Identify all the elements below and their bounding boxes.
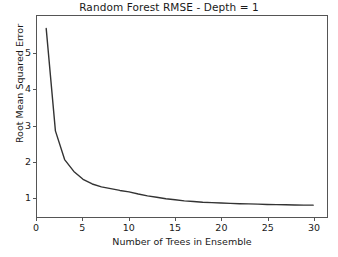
x-tick-label: 30 [299, 223, 329, 233]
x-tick-mark [314, 218, 315, 221]
y-tick-mark [33, 162, 36, 163]
x-tick-mark [175, 218, 176, 221]
y-tick-mark [33, 126, 36, 127]
y-tick-label: 1 [0, 193, 31, 203]
plot-area [36, 15, 328, 218]
x-tick-mark [82, 218, 83, 221]
y-tick-mark [33, 53, 36, 54]
rmse-line-series [37, 16, 327, 217]
x-axis-label: Number of Trees in Ensemble [36, 236, 328, 247]
x-tick-mark [36, 218, 37, 221]
x-tick-label: 5 [67, 223, 97, 233]
x-tick-label: 15 [160, 223, 190, 233]
y-axis-label: Root Mean Squared Error [14, 9, 25, 159]
x-tick-mark [221, 218, 222, 221]
x-tick-label: 10 [114, 223, 144, 233]
rmse-curve-path [46, 29, 313, 206]
chart-title: Random Forest RMSE - Depth = 1 [0, 1, 338, 13]
y-tick-mark [33, 198, 36, 199]
x-tick-label: 20 [206, 223, 236, 233]
x-tick-label: 0 [21, 223, 51, 233]
x-tick-label: 25 [253, 223, 283, 233]
chart-figure: Random Forest RMSE - Depth = 1 12345 051… [0, 0, 338, 257]
x-tick-mark [268, 218, 269, 221]
x-tick-mark [129, 218, 130, 221]
y-tick-mark [33, 89, 36, 90]
